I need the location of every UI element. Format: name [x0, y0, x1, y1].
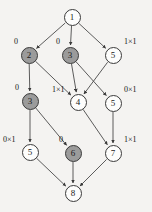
edge-label-lbl-n4: 1×1 [52, 86, 65, 94]
graph-node-n7: 7 [105, 145, 122, 162]
graph-diagram: 12353455678 001×101×10×10×101×1 [0, 0, 152, 212]
graph-node-n8: 8 [65, 185, 82, 202]
graph-edge-n4-to-n7 [83, 109, 107, 144]
graph-node-n4: 4 [70, 94, 87, 111]
edge-label-lbl-n3b: 0 [15, 84, 19, 92]
graph-edge-n3a-to-n4 [72, 64, 77, 92]
graph-node-n1: 1 [64, 9, 81, 26]
graph-node-n6: 6 [65, 145, 82, 162]
graph-edge-n5c-to-n8 [37, 158, 66, 186]
edge-label-lbl-n5a: 1×1 [124, 38, 137, 46]
graph-edge-n1-to-n3a [71, 26, 72, 45]
graph-edge-n1-to-n2 [36, 23, 65, 48]
graph-node-n3b: 3 [22, 93, 39, 110]
graph-edge-n7-to-n8 [80, 159, 107, 186]
graph-node-n2: 2 [21, 47, 38, 64]
graph-node-n5a: 5 [105, 47, 122, 64]
graph-edge-n5a-to-n4 [84, 62, 108, 94]
edge-label-lbl-n3a: 0 [56, 38, 60, 46]
edge-label-lbl-n6: 0 [59, 136, 63, 144]
edge-label-lbl-n2: 0 [14, 38, 18, 46]
edge-label-lbl-n7: 1×1 [124, 136, 137, 144]
graph-node-n5c: 5 [22, 144, 39, 161]
graph-node-n3a: 3 [62, 47, 79, 64]
edge-label-lbl-n5c: 0×1 [3, 136, 16, 144]
graph-edge-n3a-to-n5b [76, 62, 106, 96]
graph-edge-n1-to-n5a [79, 23, 106, 48]
graph-node-n5b: 5 [105, 95, 122, 112]
graph-edge-n2-to-n3b [29, 64, 30, 91]
edge-label-lbl-n5b: 0×1 [124, 86, 137, 94]
